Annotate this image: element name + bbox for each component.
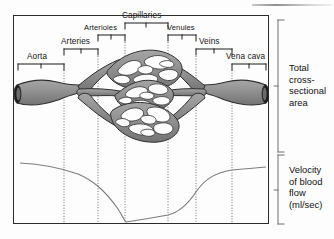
bracket-aorta — [18, 64, 64, 70]
axis-line-4: area — [289, 97, 326, 109]
velocity-line-4: (ml/sec) — [289, 199, 322, 211]
bracket-capillaries — [125, 23, 168, 29]
velocity-line-3: flow — [289, 187, 322, 199]
axis-label-total-cross-sectional-area: Total cross- sectional area — [289, 62, 326, 108]
label-arteries: Arteries — [61, 38, 90, 46]
bracket-arterioles — [98, 35, 125, 41]
bracket-venules — [168, 35, 196, 41]
velocity-of-blood-flow-curve — [20, 163, 266, 222]
bracket-velocity-of-blood-flow — [274, 155, 284, 224]
label-venules: Venules — [167, 24, 195, 32]
figure-root: Aorta Arteries Arterioles Capillaries Ve… — [0, 0, 334, 239]
axis-line-3: sectional — [289, 85, 326, 97]
label-veins: Veins — [199, 38, 220, 46]
axis-line-2: cross- — [289, 74, 326, 86]
diagram-canvas — [0, 0, 334, 239]
vena-cava-lumen-inner — [263, 88, 267, 101]
velocity-line-1: Velocity — [289, 164, 322, 176]
velocity-line-2: of blood — [289, 176, 322, 188]
bracket-total-cross-sectional-area — [274, 20, 284, 152]
axis-label-velocity-of-blood-flow: Velocity of blood flow (ml/sec) — [289, 164, 322, 210]
label-capillaries: Capillaries — [122, 12, 161, 20]
axis-line-1: Total — [289, 62, 326, 74]
label-vena-cava: Vena cava — [226, 53, 265, 61]
label-arterioles: Arterioles — [84, 24, 117, 32]
right-axis-brackets — [274, 20, 284, 224]
aorta-vessel — [17, 80, 80, 105]
bracket-arteries — [64, 49, 98, 55]
aorta-lumen-inner — [16, 88, 20, 101]
vena-cava-vessel — [203, 80, 266, 105]
label-aorta: Aorta — [27, 53, 47, 61]
bracket-vena-cava — [232, 64, 266, 70]
capillary-bed-lower — [111, 102, 179, 142]
